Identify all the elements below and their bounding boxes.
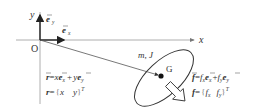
svg-text:r=xex+yey: r=xex+yey (46, 72, 84, 83)
diagram-canvas: x y O e y e x m, J G r=xex+yey (0, 0, 264, 111)
centroid-label: G (166, 64, 173, 74)
y-axis-label: y (29, 9, 35, 20)
unit-vector-ex-label: e x (62, 25, 71, 36)
svg-text:f=fxex+fyey: f=fxex+fyey (192, 72, 230, 83)
force-vector-equation: f=fxex+fyey (192, 72, 240, 83)
unit-vector-ey-label: e y (46, 14, 55, 25)
origin-label: O (31, 43, 38, 54)
body-properties-label: m, J (138, 50, 154, 60)
position-matrix-equation: r={xy}T (46, 86, 85, 97)
force-arrow (163, 79, 191, 107)
x-axis-label: x (198, 34, 204, 45)
force-matrix-equation: f={fxfy}T (192, 86, 230, 98)
svg-text:e: e (62, 25, 66, 35)
svg-text:r={xy}T: r={xy}T (46, 86, 85, 97)
svg-text:x: x (67, 30, 71, 36)
svg-text:e: e (46, 14, 50, 24)
svg-text:y: y (51, 19, 55, 25)
svg-text:f={fxfy}T: f={fxfy}T (192, 86, 230, 98)
centroid-dot (158, 73, 163, 78)
position-vector-equation: r=xex+yey (46, 72, 91, 83)
